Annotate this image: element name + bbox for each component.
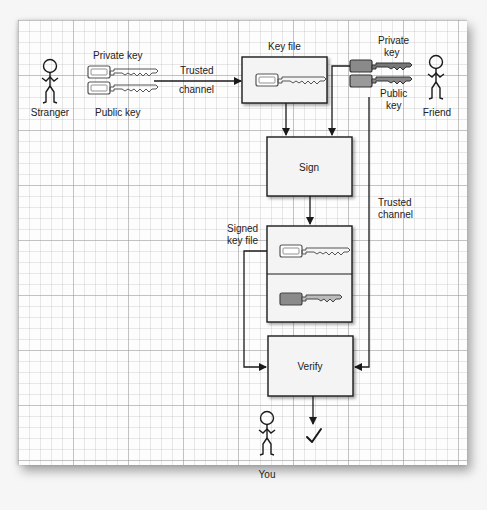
you-figure-icon — [259, 412, 275, 456]
trusted-channel-top-label-line2: channel — [179, 84, 214, 95]
stranger-label: Stranger — [31, 107, 70, 118]
signed-key-file-label-line1: Signed — [227, 223, 258, 234]
signing-diagram: Stranger Private key Public key Trusted … — [0, 0, 487, 510]
checkmark-icon — [307, 429, 321, 442]
key-file-box — [242, 57, 327, 103]
private-key-to-sign-arrow — [332, 66, 350, 135]
friend-public-key-label-line2: key — [386, 100, 402, 111]
trusted-channel-right-label-line2: channel — [378, 209, 413, 220]
friend-private-key-label-line1: Private — [378, 35, 410, 46]
stranger-private-key-icon — [88, 66, 158, 78]
trusted-channel-top-label-line1: Trusted — [180, 65, 214, 76]
stranger-public-key-icon — [88, 82, 158, 94]
friend-figure-icon — [428, 56, 444, 100]
key-file-label: Key file — [268, 41, 301, 52]
friend-label: Friend — [423, 107, 451, 118]
friend-public-key-label-line1: Public — [380, 88, 407, 99]
friend-public-key-icon — [350, 75, 412, 87]
verify-label: Verify — [297, 361, 322, 372]
stranger-public-key-label: Public key — [95, 107, 141, 118]
sign-label: Sign — [299, 162, 319, 173]
stranger-figure-icon — [42, 60, 58, 104]
signed-key-file-label-line2: key file — [227, 235, 259, 246]
you-label: You — [259, 469, 276, 480]
trusted-channel-right-label-line1: Trusted — [378, 197, 412, 208]
stranger-private-key-label: Private key — [93, 50, 142, 61]
public-key-trusted-channel-arrow — [355, 97, 369, 367]
friend-private-key-label-line2: key — [384, 47, 400, 58]
friend-private-key-icon — [350, 60, 412, 72]
signed-file-to-verify-arrow — [244, 251, 267, 367]
